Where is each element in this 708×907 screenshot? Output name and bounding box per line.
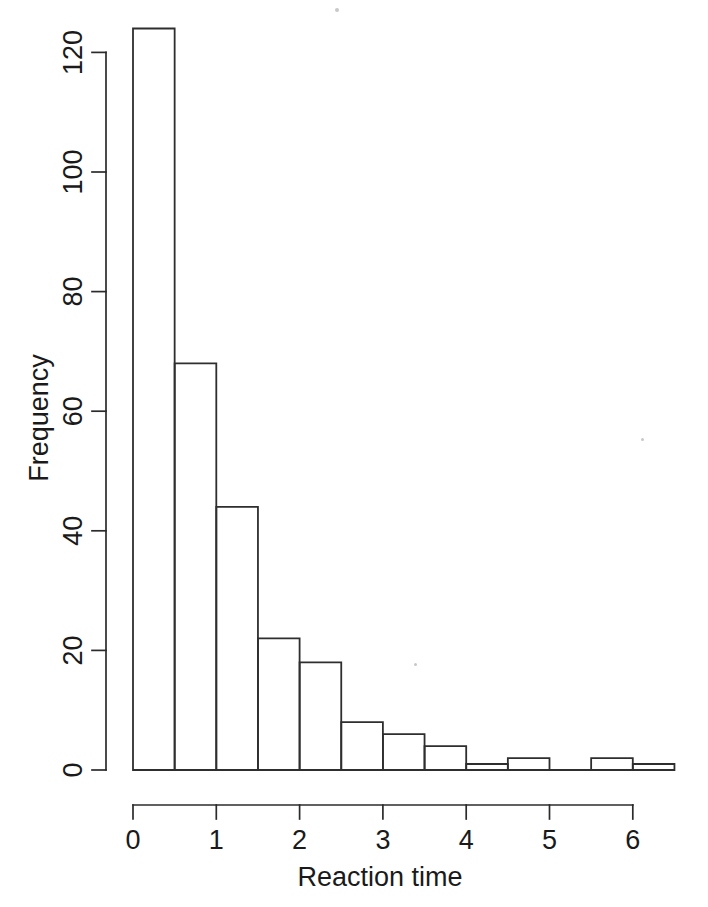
y-axis: 020406080100120 [58,30,106,778]
y-axis-tick-label: 100 [58,149,88,194]
histogram-bar [425,746,467,770]
y-axis-title: Frequency [24,354,54,482]
histogram-bars [133,28,674,770]
x-axis-tick-labels: 0123456 [125,825,640,855]
y-axis-tick-label: 60 [58,396,88,426]
histogram-figure: 020406080100120 0123456 Reaction time Fr… [0,0,708,907]
x-axis-tick-label: 0 [125,825,140,855]
x-axis-title: Reaction time [297,862,462,892]
histogram-bar [133,28,175,770]
x-axis: 0123456 [125,805,640,855]
x-axis-tick-label: 5 [542,825,557,855]
histogram-bar [258,638,300,770]
x-axis-ticks [133,805,633,819]
histogram-bar [216,507,258,770]
histogram-bar [383,734,425,770]
histogram-bar [341,722,383,770]
y-axis-tick-label: 40 [58,516,88,546]
plot-area: 020406080100120 0123456 Reaction time Fr… [0,0,708,907]
x-axis-tick-label: 2 [292,825,307,855]
x-axis-tick-label: 4 [459,825,474,855]
y-axis-tick-label: 80 [58,277,88,307]
histogram-bar [508,758,550,770]
histogram-bar [300,662,342,770]
x-axis-tick-label: 6 [625,825,640,855]
y-axis-tick-label: 20 [58,635,88,665]
y-axis-ticks [92,52,106,770]
histogram-bar [591,758,633,770]
x-axis-tick-label: 1 [209,825,224,855]
y-axis-tick-label: 120 [58,30,88,75]
y-axis-tick-label: 0 [58,762,88,777]
y-axis-tick-labels: 020406080100120 [58,30,88,778]
x-axis-tick-label: 3 [375,825,390,855]
histogram-bar [175,363,217,770]
